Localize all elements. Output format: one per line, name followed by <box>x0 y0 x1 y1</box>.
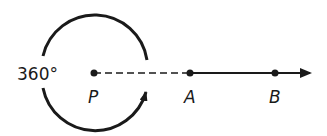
angle-diagram: 360° P A B <box>0 0 327 136</box>
point-p <box>91 70 98 77</box>
point-b <box>272 70 279 77</box>
point-a <box>187 70 194 77</box>
label-a: A <box>183 87 196 107</box>
angle-label: 360° <box>17 64 58 84</box>
label-p: P <box>88 87 99 107</box>
rotation-arc-upper <box>43 15 147 60</box>
label-b: B <box>269 87 281 107</box>
